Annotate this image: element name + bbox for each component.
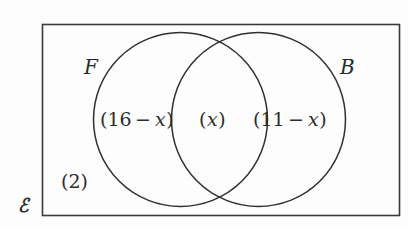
left-variable: x	[155, 108, 167, 130]
left-value: 16	[107, 108, 131, 130]
left-only-region-label: (16−x)	[100, 110, 174, 129]
set-b-label: B	[340, 57, 355, 77]
right-close-paren: )	[319, 108, 326, 130]
mid-close-paren: )	[218, 108, 225, 130]
left-close-paren: )	[166, 108, 173, 130]
mid-variable: x	[206, 108, 218, 130]
right-operator: −	[285, 108, 308, 130]
outside-region-label: (2)	[61, 172, 88, 191]
right-only-region-label: (11−x)	[253, 110, 327, 129]
intersection-region-label: (x)	[199, 110, 226, 129]
right-value: 11	[260, 108, 284, 130]
left-operator: −	[132, 108, 155, 130]
set-f-label: F	[84, 57, 98, 77]
venn-diagram-figure: F B (16−x) (x) (11−x) (2) ℰ	[0, 0, 408, 228]
universal-set-symbol: ℰ	[18, 196, 29, 215]
right-variable: x	[308, 108, 320, 130]
